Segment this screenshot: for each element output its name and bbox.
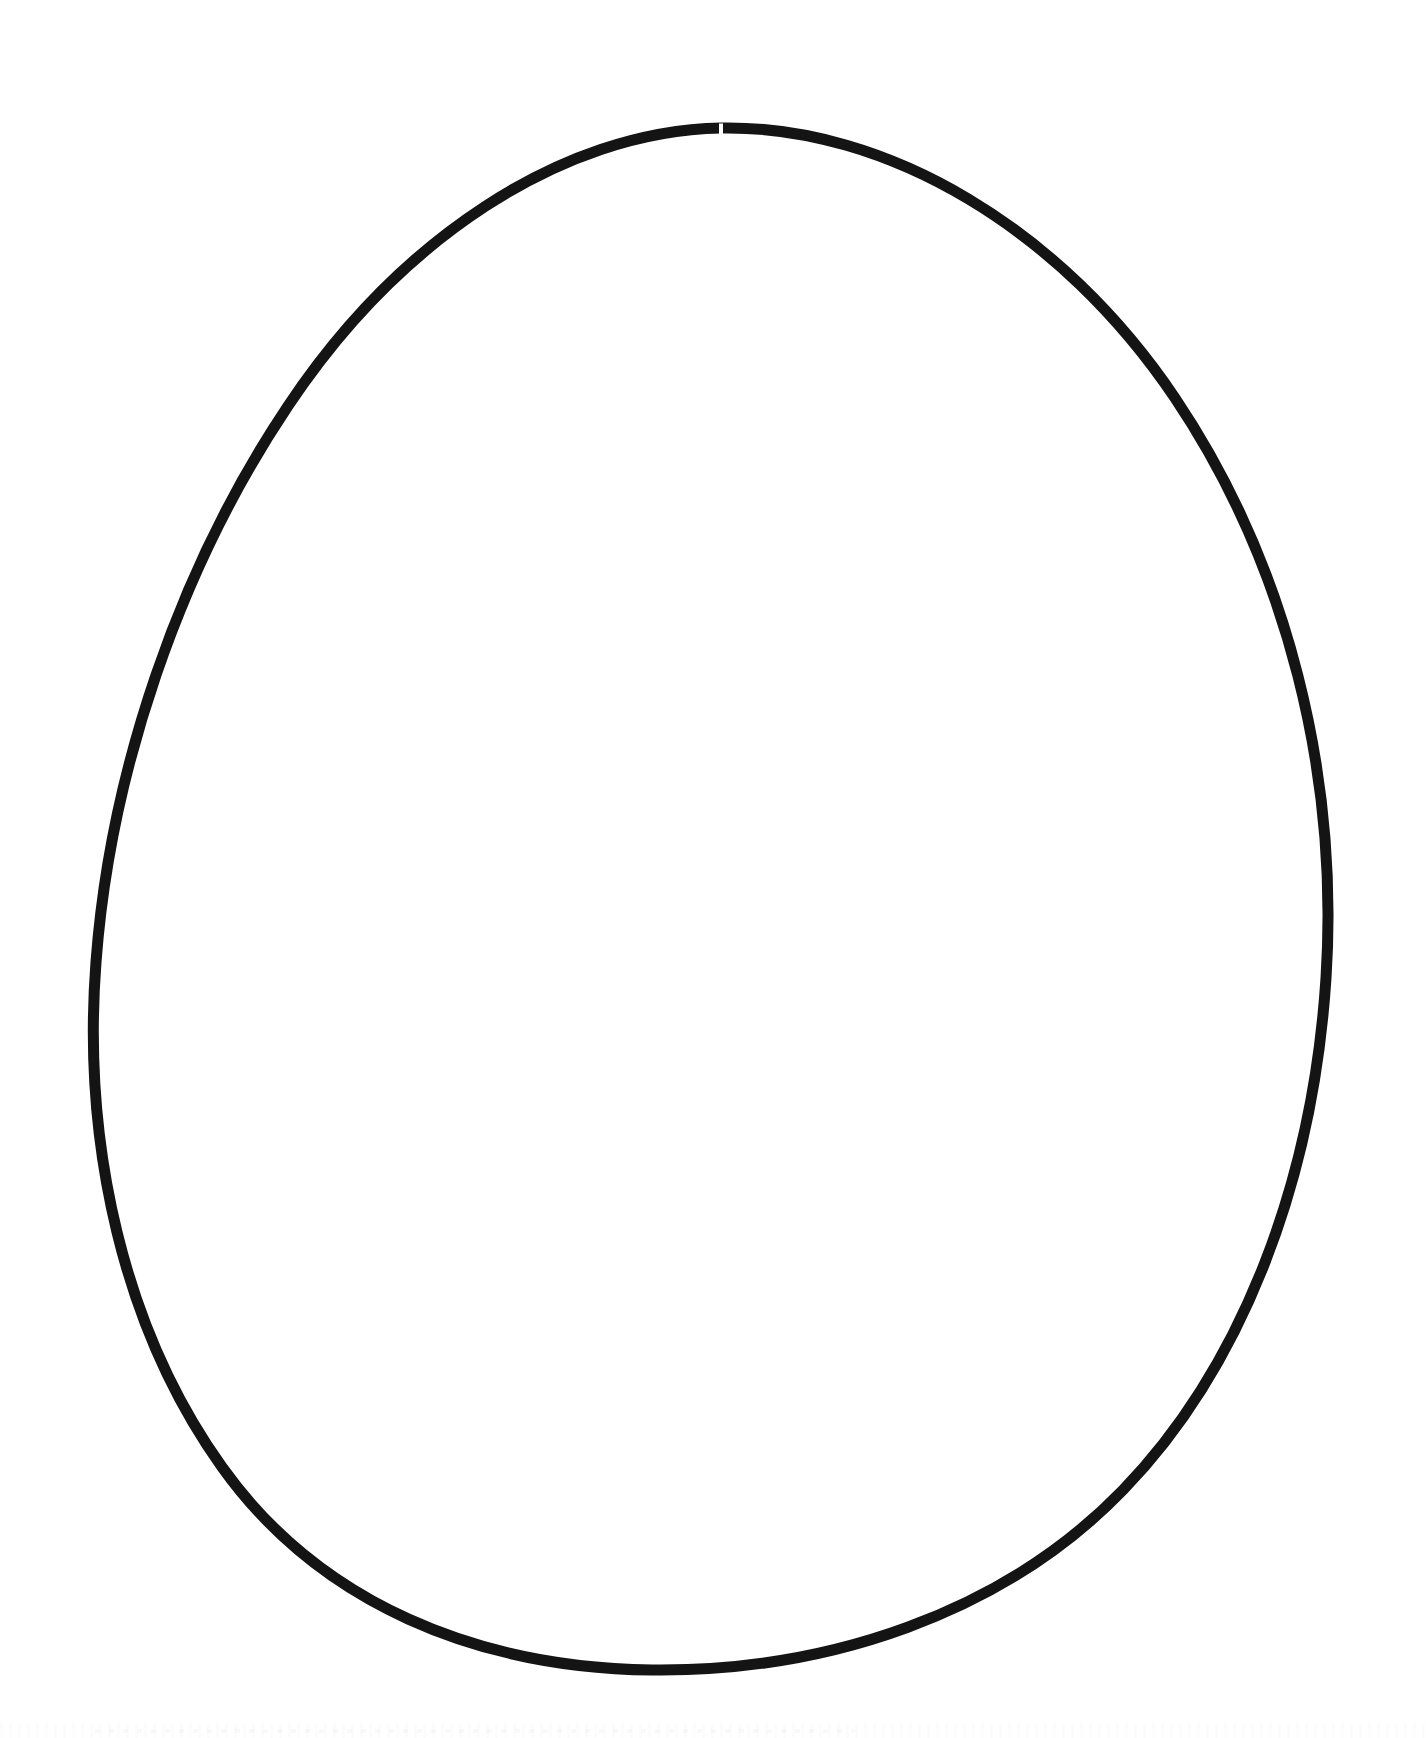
artwork-background bbox=[0, 0, 1426, 1738]
pen-stroke-seam-at-apex bbox=[719, 124, 723, 137]
page-canvas: Egg Outline Template bbox=[0, 0, 1426, 1738]
egg-outline-artwork bbox=[0, 0, 1426, 1738]
